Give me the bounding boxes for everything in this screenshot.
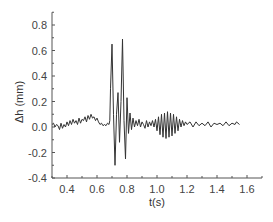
x-tick-label: 1.6: [239, 183, 254, 195]
y-tick-label: -0.4: [28, 172, 47, 184]
x-axis-title: t(s): [149, 196, 165, 208]
x-tick-label: 1.0: [149, 183, 164, 195]
x-axis: 0.40.60.81.01.21.41.6: [52, 175, 262, 195]
y-tick-label: 0.0: [32, 121, 47, 133]
x-tick-label: 1.4: [209, 183, 224, 195]
x-tick-label: 0.6: [89, 183, 104, 195]
x-tick-label: 0.8: [119, 183, 134, 195]
x-tick-label: 1.2: [179, 183, 194, 195]
y-tick-label: 0.8: [32, 19, 47, 31]
chart: 0.80.60.40.20.0-0.2-0.4 0.40.60.81.01.21…: [0, 0, 273, 222]
y-axis: 0.80.60.40.20.0-0.2-0.4: [28, 12, 55, 184]
y-tick-label: 0.6: [32, 45, 47, 57]
y-tick-label: -0.2: [28, 147, 47, 159]
y-axis-title: Δh (mm): [13, 81, 25, 123]
y-tick-label: 0.2: [32, 96, 47, 108]
signal-line: [52, 39, 240, 165]
x-tick-label: 0.4: [59, 183, 74, 195]
y-tick-label: 0.4: [32, 70, 47, 82]
